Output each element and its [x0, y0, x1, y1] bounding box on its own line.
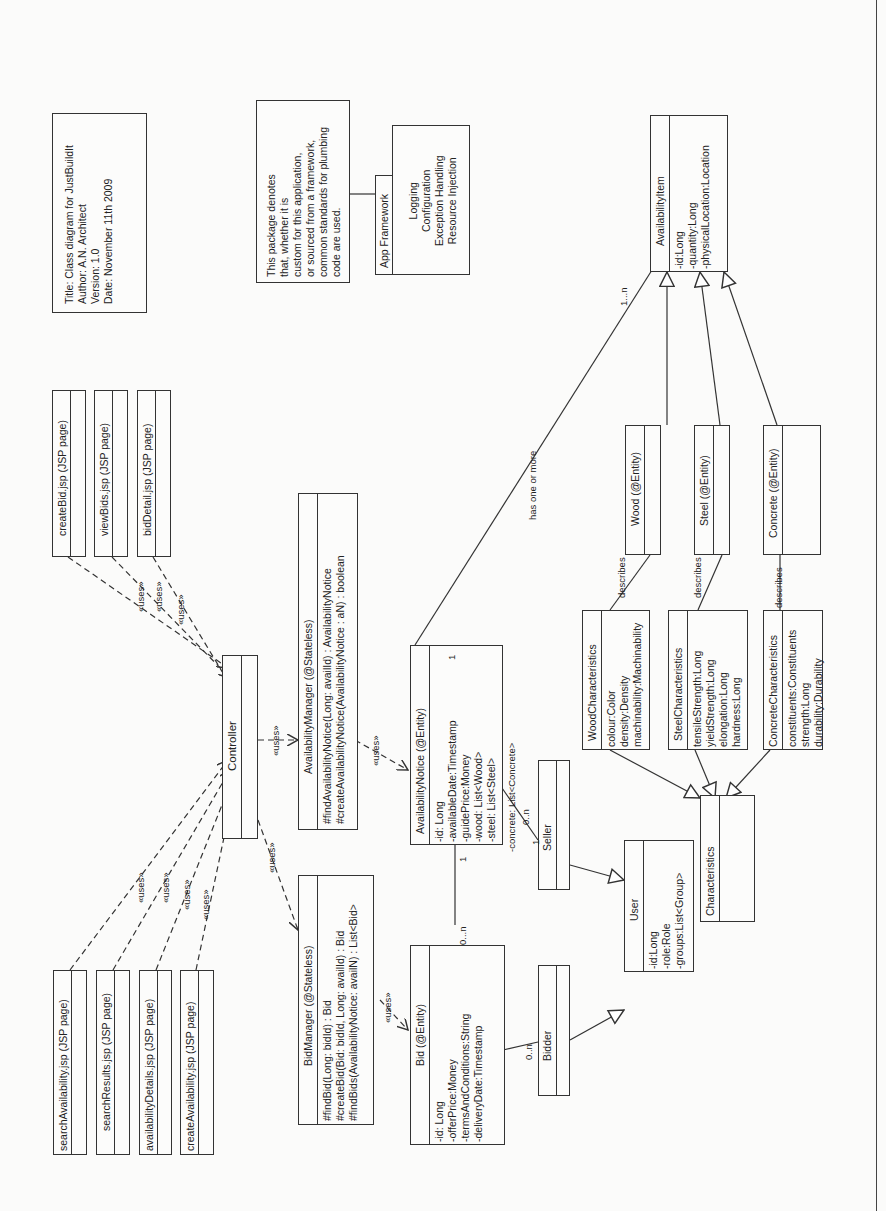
concrete-characteristics-class[interactable]: ConcreteCharacteristics constituents:Con… — [763, 610, 823, 750]
attribute: -id: Long — [433, 720, 446, 842]
app-framework-tab: App Framework — [375, 175, 393, 275]
note-line: common standards for plumbing — [317, 127, 330, 277]
availability-notice-class[interactable]: AvailabilityNotice (@Entity) -id: Long -… — [410, 645, 503, 845]
availability-manager-class[interactable]: AvailabilityManager (@Stateless) #findAv… — [298, 493, 358, 830]
attribute: -deliveryDate:Timestamp — [472, 1014, 485, 1142]
jsp-createavailability[interactable]: createAvailability.jsp (JSP page) — [180, 970, 214, 1155]
attribute: density:Density — [618, 623, 631, 747]
author-line: Author: A.N. Architect — [76, 145, 89, 304]
date-line: Date: November 11th 2009 — [102, 145, 115, 304]
class-name: WoodCharacteristics — [586, 644, 599, 741]
attribute: -groups:List<Group> — [673, 873, 686, 969]
user-class[interactable]: User -id:Long -role:Role -groups:List<Gr… — [624, 840, 694, 972]
steel-class[interactable]: Steel (@Entity) — [694, 425, 730, 555]
bidder-class[interactable]: Bidder — [538, 965, 570, 1096]
attribute-overflow: -concrete: List<Concrete> — [506, 743, 517, 852]
jsp-createbid[interactable]: createBid.jsp (JSP page) — [52, 390, 86, 557]
attribute: -role:Role — [660, 873, 673, 969]
multiplicity: 0...n — [457, 927, 468, 946]
version-line: Version: 1.0 — [89, 145, 102, 304]
describes-label: describes — [773, 567, 784, 608]
attribute: -guidePrice:Money — [459, 720, 472, 842]
class-name: ConcreteCharacteristics — [767, 635, 780, 747]
attribute: -availableDate:Timestamp — [446, 720, 459, 842]
framework-item: Resource Injection — [446, 156, 459, 246]
attribute: elongation:Long — [717, 651, 730, 747]
attribute: colour:Color — [605, 623, 618, 747]
attribute: -termsAndConditions:String — [459, 1014, 472, 1142]
controller-class[interactable]: Controller — [222, 655, 258, 839]
app-framework-package: Logging Configuration Exception Handling… — [392, 125, 470, 275]
multiplicity: 1...n — [618, 288, 629, 307]
describes-label: describes — [692, 557, 703, 598]
uses-label: «uses» — [153, 581, 164, 612]
title-note: Title: Class diagram for JustBuildIt Aut… — [52, 113, 147, 313]
attribute: tensileStrength:Long — [691, 651, 704, 747]
concrete-class[interactable]: Concrete (@Entity) — [763, 425, 821, 555]
framework-item: Exception Handling — [433, 156, 446, 246]
uses-label: «uses» — [382, 992, 393, 1023]
operation: #findBids(AvailabilityNotice: availN) : … — [347, 904, 360, 1121]
multiplicity: 0..n — [520, 809, 531, 825]
note-line: custom for this application, — [291, 127, 304, 277]
availability-item-class[interactable]: AvailabilityItem -id:Long -quantity:Long… — [650, 115, 728, 272]
multiplicity: 0..n — [523, 1044, 534, 1060]
bid-class[interactable]: Bid (@Entity) -id: Long -offerPrice:Mone… — [410, 945, 505, 1145]
title-line: Title: Class diagram for JustBuildIt — [63, 145, 76, 304]
wood-class[interactable]: Wood (@Entity) — [625, 425, 661, 555]
jsp-biddetail[interactable]: bidDetail.jsp (JSP page) — [137, 390, 171, 557]
note-line: This package denotes — [265, 127, 278, 277]
jsp-label: searchResults.jsp (JSP page) — [100, 993, 113, 1131]
jsp-searchavailability[interactable]: searchAvailability.jsp (JSP page) — [53, 970, 87, 1155]
note-line: or sourced from a framework, — [304, 127, 317, 277]
seller-class[interactable]: Seller — [538, 760, 570, 890]
jsp-label: searchAvailability.jsp (JSP page) — [57, 999, 70, 1151]
attribute: -id:Long — [647, 873, 660, 969]
attribute: -steel: List<Steel> — [485, 720, 498, 842]
framework-item: Configuration — [420, 156, 433, 246]
jsp-label: createAvailability.jsp (JSP page) — [184, 1002, 197, 1151]
note-line: that, whether it is — [278, 127, 291, 277]
jsp-searchresults[interactable]: searchResults.jsp (JSP page) — [96, 970, 130, 1155]
uses-label: «uses» — [266, 842, 277, 873]
steel-characteristics-class[interactable]: SteelCharacteristics tensileStrength:Lon… — [668, 610, 748, 750]
package-note: This package denotes that, whether it is… — [256, 100, 350, 283]
wood-characteristics-class[interactable]: WoodCharacteristics colour:Color density… — [582, 610, 650, 750]
operation: #createBid(Bid: bidId, Long: availId) : … — [334, 904, 347, 1121]
attribute: -id: Long — [433, 1014, 446, 1142]
uses-label: «uses» — [181, 879, 192, 910]
attribute: hardness:Long — [730, 651, 743, 747]
class-name: Steel (@Entity) — [698, 455, 711, 526]
association-label: has one or more — [527, 451, 538, 520]
operation: #findBid(Long: bidId) : Bid — [321, 904, 334, 1121]
jsp-availabilitydetails[interactable]: availabilityDetails.jsp (JSP page) — [139, 970, 172, 1155]
class-name: BidManager (@Stateless) — [302, 946, 315, 1066]
multiplicity: 1 — [446, 655, 457, 660]
attribute: -offerPrice:Money — [446, 1014, 459, 1142]
jsp-viewbids[interactable]: viewBids.jsp (JSP page) — [94, 390, 128, 557]
attribute: strength:Long — [799, 630, 812, 747]
note-line: code are used. — [330, 127, 343, 277]
class-name: Concrete (@Entity) — [767, 449, 780, 538]
class-name: AvailabilityNotice (@Entity) — [414, 708, 427, 834]
characteristics-class[interactable]: Characteristics — [700, 795, 755, 922]
operation: #createAvailabilityNotice(AvailabilityNo… — [334, 555, 347, 824]
uses-label: «uses» — [270, 725, 281, 756]
class-name: AvailabilityManager (@Stateless) — [302, 619, 315, 774]
package-tab-label: App Framework — [378, 194, 391, 268]
jsp-label: viewBids.jsp (JSP page) — [98, 423, 111, 536]
attribute: -wood: List<Wood> — [472, 720, 485, 842]
attribute: -id:Long — [673, 145, 686, 269]
framework-item: Logging — [407, 156, 420, 246]
attribute: constituents:Constituents — [786, 630, 799, 747]
class-name: Characteristics — [704, 847, 717, 916]
class-name: SteelCharacteristics — [672, 648, 685, 741]
uses-label: «uses» — [135, 581, 146, 612]
class-name: Wood (@Entity) — [629, 452, 642, 526]
uses-label: «uses» — [200, 889, 211, 920]
bid-manager-class[interactable]: BidManager (@Stateless) #findBid(Long: b… — [298, 875, 374, 1125]
class-name: Controller — [226, 721, 239, 771]
uses-label: «uses» — [370, 735, 381, 766]
class-name: AvailabilityItem — [654, 176, 667, 246]
attribute: -physicalLocation:Location — [699, 145, 712, 269]
